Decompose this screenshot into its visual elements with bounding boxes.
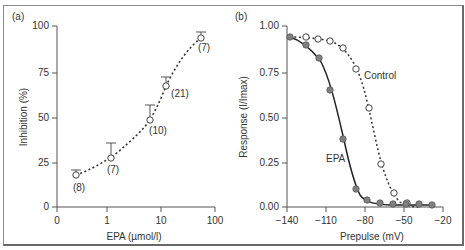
a-xlabel: EPA (µmol/l) — [106, 231, 161, 242]
b-ytick-050: 0.50 — [260, 112, 280, 123]
a-n-label: (7) — [107, 164, 119, 175]
b-xtick: −20 — [435, 215, 452, 226]
a-ylabel: Inhibition (%) — [18, 88, 29, 146]
a-point — [108, 155, 114, 161]
a-point — [73, 172, 79, 178]
a-ytick-0: 0 — [43, 201, 49, 212]
epa-label: EPA — [326, 153, 346, 164]
control-label: Control — [364, 70, 396, 81]
a-error-bars — [71, 32, 206, 175]
panel-a-label: (a) — [12, 11, 24, 22]
chart-b: (b) 1.00 0.75 0.50 0.25 0.00 −140 −110 −… — [235, 11, 452, 242]
a-n-label: (7) — [198, 42, 210, 53]
b-xtick: −50 — [396, 215, 413, 226]
panel-b-label: (b) — [235, 11, 247, 22]
epa-curve — [290, 37, 432, 205]
a-point — [198, 35, 204, 41]
a-point — [147, 117, 153, 123]
b-ytick-000: 0.00 — [260, 201, 280, 212]
a-point — [163, 83, 169, 89]
a-n-label: (8) — [73, 182, 85, 193]
a-n-label: (21) — [171, 88, 189, 99]
b-xtick: −140 — [276, 215, 299, 226]
figure-svg: (a) 100 75 50 25 0 0 1 10 100 EPA (µmol/… — [0, 0, 465, 250]
a-ytick-75: 75 — [38, 67, 50, 78]
epa-points — [287, 34, 435, 208]
b-ytick-025: 0.25 — [260, 157, 280, 168]
a-ytick-100: 100 — [32, 20, 49, 31]
a-ytick-50: 50 — [38, 112, 50, 123]
a-xtick-100: 100 — [207, 215, 224, 226]
b-ylabel: Response (I/Imax) — [238, 76, 249, 158]
b-xtick: −80 — [357, 215, 374, 226]
a-fit-curve — [76, 38, 201, 175]
chart-a: (a) 100 75 50 25 0 0 1 10 100 EPA (µmol/… — [12, 11, 224, 242]
b-ytick-075: 0.75 — [260, 67, 280, 78]
a-xtick-1: 1 — [104, 215, 110, 226]
a-xtick-0: 0 — [54, 215, 60, 226]
a-n-label: (10) — [149, 125, 167, 136]
b-ytick-100: 1.00 — [260, 20, 280, 31]
b-xlabel: Prepulse (mV) — [340, 231, 404, 242]
b-xtick: −110 — [315, 215, 337, 226]
a-data-points — [73, 35, 204, 178]
a-ytick-25: 25 — [38, 157, 50, 168]
a-xtick-10: 10 — [155, 215, 167, 226]
